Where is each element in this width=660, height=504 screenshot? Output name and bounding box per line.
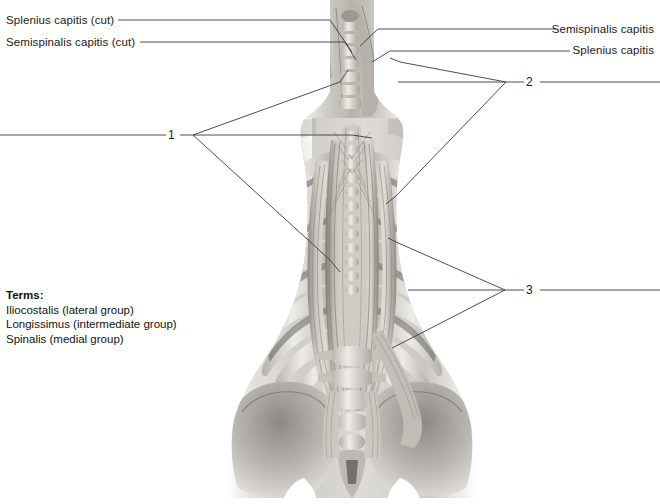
label-semispinalis-capitis: Semispinalis capitis (552, 23, 654, 36)
semispinalis-capitis-cut-stump (318, 44, 332, 80)
callout-number-3: 3 (526, 284, 533, 296)
terms-item-spinalis: Spinalis (medial group) (6, 332, 177, 347)
terms-heading: Terms: (6, 288, 177, 303)
posterior-deep-back-muscles-illustration (212, 0, 492, 498)
callout-number-2: 2 (526, 76, 533, 88)
label-splenius-capitis-cut: Splenius capitis (cut) (6, 14, 114, 27)
terms-block: Terms: Iliocostalis (lateral group) Long… (6, 288, 177, 346)
label-semispinalis-capitis-cut: Semispinalis capitis (cut) (6, 36, 135, 49)
label-splenius-capitis: Splenius capitis (572, 44, 654, 57)
splenius-capitis-cut-stump (312, 2, 327, 44)
anatomy-illustration-svg (212, 0, 492, 498)
neck-region (304, 0, 400, 118)
anatomy-figure-page: Splenius capitis (cut) Semispinalis capi… (0, 0, 660, 504)
terms-item-longissimus: Longissimus (intermediate group) (6, 317, 177, 332)
terms-item-iliocostalis: Iliocostalis (lateral group) (6, 303, 177, 318)
callout-number-1: 1 (168, 129, 175, 141)
